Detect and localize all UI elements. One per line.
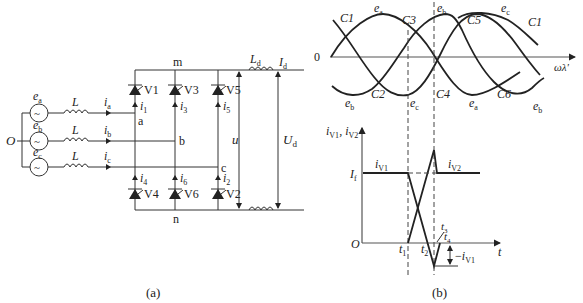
svg-text:V6: V6 [184,187,199,201]
curve-ea [331,14,520,95]
svg-text:V1: V1 [144,83,159,97]
svg-text:C4: C4 [436,87,450,101]
svg-text:C6: C6 [497,87,511,101]
svg-text:Ld: Ld [249,52,261,68]
phase-a-branch: ~ ea L ia [22,89,135,122]
phase-c-branch: ~ ec L ic [22,145,218,176]
thyristor-v6-icon [169,189,181,199]
svg-text:Ud: Ud [283,132,297,149]
svg-text:t: t [498,245,502,259]
caption-b: (b) [432,285,447,300]
svg-text:ea: ea [469,96,478,112]
svg-text:i4: i4 [140,171,147,187]
svg-text:iV1, iV2: iV1, iV2 [326,124,358,140]
thyristor-v3: V3 i3 [168,83,199,115]
svg-text:ec: ec [410,96,419,112]
svg-text:V4: V4 [144,187,159,201]
svg-text:u: u [232,132,239,147]
svg-text:ia: ia [104,95,111,111]
svg-text:−iV1: −iV1 [455,249,475,265]
svg-text:ea: ea [33,89,42,105]
thyristor-v3-icon [169,85,181,95]
svg-text:i6: i6 [180,171,187,187]
svg-text:eb: eb [533,99,542,115]
svg-text:C1: C1 [340,11,354,25]
neutral-label: O [6,133,16,148]
svg-text:b: b [179,134,185,148]
svg-text:a: a [138,114,144,128]
svg-text:V5: V5 [226,83,241,97]
phase-b-branch: ~ eb L ib [22,118,175,150]
svg-text:C5: C5 [467,13,481,27]
thyristor-v4-icon [129,189,141,199]
dc-side: u Ld Id Ud [232,52,297,210]
svg-text:ib: ib [104,123,111,139]
svg-text:n: n [173,212,179,226]
thyristor-v5-icon [212,85,224,95]
inductor-b-icon [64,138,88,141]
svg-text:L: L [71,149,79,163]
curve-eb [333,14,540,95]
svg-text:V3: V3 [184,83,199,97]
svg-text:0: 0 [314,50,320,64]
svg-text:t1: t1 [399,242,406,258]
thyristor-v2: i2 V2 [211,171,241,201]
svg-text:eb: eb [345,96,354,112]
inductor-c-icon [64,164,88,167]
svg-text:V2: V2 [226,187,241,201]
svg-text:ec: ec [33,145,42,161]
svg-text:i3: i3 [180,99,187,115]
svg-text:C1: C1 [528,15,542,29]
svg-text:ea: ea [374,1,383,17]
waveform-plots: 0 ωλ' C1 C2 C3 C4 C5 C6 C1 ea eb ec eb e… [314,1,575,300]
thyristor-v5: V5 i5 [211,83,241,115]
thyristor-v4: i4 V4 [128,171,159,201]
svg-text:i2: i2 [223,171,230,187]
caption-a: (a) [146,285,160,300]
svg-text:If: If [349,167,357,183]
svg-text:ωλ': ωλ' [554,61,570,73]
thyristor-v1-icon [129,85,141,95]
thyristor-v1: V1 i1 [128,83,159,115]
svg-text:m: m [173,55,183,69]
svg-text:iV2: iV2 [448,157,461,173]
svg-text:eb: eb [437,1,446,17]
thyristor-v6: i6 V6 [168,171,199,201]
svg-text:ic: ic [104,149,111,165]
svg-text:ec: ec [501,1,510,17]
svg-text:L: L [71,123,79,137]
svg-text:i5: i5 [223,99,230,115]
svg-text:~: ~ [34,161,40,173]
svg-text:L: L [71,95,79,109]
svg-text:C2: C2 [371,87,385,101]
thyristor-v2-icon [212,189,224,199]
svg-text:C3: C3 [402,13,416,27]
svg-text:i1: i1 [140,99,147,115]
curve-ec [332,14,544,95]
svg-text:O: O [351,237,360,251]
svg-text:iV1: iV1 [375,157,388,173]
inductor-a-icon [64,110,88,113]
svg-text:eb: eb [33,118,42,134]
bridge-circuit: O ~ ea L ia ~ eb L ib [6,52,304,300]
svg-text:Id: Id [278,55,287,71]
